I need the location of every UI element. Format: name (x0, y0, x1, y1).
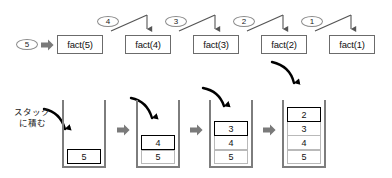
stack-cells: 5 4 3 2 (287, 107, 321, 164)
stack-push-caption-line1: スタック (14, 107, 50, 118)
stack-transition-arrow-1 (117, 124, 130, 136)
input-value-oval: 5 (16, 39, 38, 50)
stack-step-4: 5 4 3 2 (282, 100, 326, 168)
stack-cells: 5 (67, 149, 101, 164)
stack-cell: 4 (287, 136, 321, 150)
stack-step-3: 5 4 3 (209, 100, 253, 168)
stack-cells: 5 4 3 (214, 121, 248, 164)
stack-cell: 5 (214, 150, 248, 164)
connector-layer (0, 0, 392, 178)
stack-cell: 5 (287, 150, 321, 164)
stack-cell: 5 (141, 150, 175, 164)
input-block-arrow (41, 39, 54, 51)
stack-transition-arrow-3 (263, 124, 276, 136)
stack-step-2: 5 4 (136, 100, 180, 168)
stack-step-1: 5 (62, 100, 106, 168)
stack-cells: 5 4 (141, 135, 175, 164)
stack-push-caption: スタック に積む (14, 107, 50, 128)
stack-cell: 3 (214, 121, 248, 136)
call-box-fact-2: fact(2) (261, 35, 307, 54)
stack-push-caption-line2: に積む (14, 118, 50, 129)
stack-transition-arrow-2 (190, 124, 203, 136)
call-box-fact-1: fact(1) (329, 35, 375, 54)
return-oval-4: 4 (97, 16, 119, 27)
call-box-fact-4: fact(4) (125, 35, 171, 54)
stack-cell: 3 (287, 122, 321, 136)
stack-cell: 2 (287, 107, 321, 122)
stack-cell: 4 (214, 136, 248, 150)
stack-cell: 4 (141, 135, 175, 150)
return-oval-2: 2 (233, 16, 255, 27)
push-curve-arrow-2 (272, 62, 294, 83)
call-box-fact-5: fact(5) (57, 35, 103, 54)
return-oval-1: 1 (301, 16, 323, 27)
diagram-canvas: 5 fact(5) fact(4) fact(3) fact(2) fact(1… (0, 0, 392, 178)
stack-cell: 5 (67, 149, 101, 164)
call-box-fact-3: fact(3) (193, 35, 239, 54)
return-oval-3: 3 (165, 16, 187, 27)
